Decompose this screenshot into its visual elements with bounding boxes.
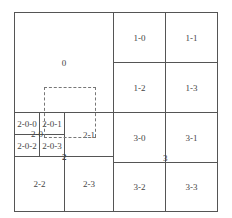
tile-label: 1-0: [134, 33, 146, 43]
tile-label: 2-0-2: [17, 141, 37, 151]
tile-label: 0: [62, 58, 67, 68]
tile-1-1: 1-1: [165, 12, 218, 63]
tile-label: 2-1: [83, 130, 95, 140]
node-label-2-0: 2-0: [31, 130, 43, 139]
tile-label: 1-2: [134, 83, 146, 93]
tile-label: 3-0: [134, 133, 146, 143]
tile-2-2: 2-2: [14, 156, 65, 212]
tile-1-3: 1-3: [165, 62, 218, 113]
tile-1-0: 1-0: [113, 12, 166, 63]
tile-label: 2-0-1: [42, 119, 62, 129]
tile-label: 2-0-0: [17, 119, 37, 129]
tile-label: 2-2: [34, 179, 46, 189]
tile-label: 3-2: [134, 182, 146, 192]
tile-label: 2-3: [83, 179, 95, 189]
tile-1-2: 1-2: [113, 62, 166, 113]
node-label-3: 3: [163, 154, 168, 163]
tile-3-1: 3-1: [165, 112, 218, 163]
node-label-2: 2: [62, 153, 67, 162]
tile-2-3: 2-3: [64, 156, 114, 212]
tile-3-3: 3-3: [165, 162, 218, 212]
tile-2-1: 2-1: [64, 112, 114, 157]
tile-0: 0: [14, 12, 114, 113]
tile-label: 3-1: [186, 133, 198, 143]
tile-label: 1-3: [186, 83, 198, 93]
tile-label: 2-0-3: [42, 141, 62, 151]
tile-3-0: 3-0: [113, 112, 166, 163]
tile-label: 3-3: [186, 182, 198, 192]
tile-3-2: 3-2: [113, 162, 166, 212]
tile-label: 1-1: [186, 33, 198, 43]
